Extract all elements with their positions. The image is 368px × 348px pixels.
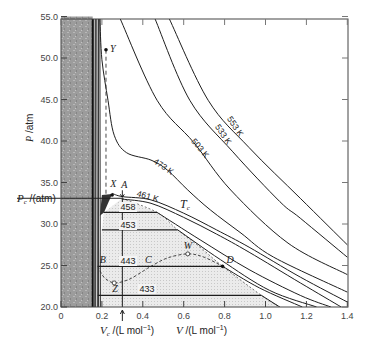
x-tick-label: 1.2 bbox=[300, 311, 313, 321]
y-tick-label: 30.0 bbox=[40, 219, 58, 229]
v-unit: /(L mol bbox=[183, 325, 216, 336]
pv-isotherm-chart: 00.20.40.60.81.01.21.420.025.030.035.040… bbox=[0, 0, 368, 348]
x-tick-label: 0.8 bbox=[218, 311, 231, 321]
x-tick-label: 1.4 bbox=[341, 311, 354, 321]
isotherm-label: 503 K bbox=[189, 136, 211, 160]
v-close: ) bbox=[224, 325, 227, 336]
pc-axis-label: Pc /(atm) bbox=[16, 192, 56, 206]
point-marker-d bbox=[221, 265, 225, 269]
point-marker-w bbox=[186, 252, 190, 256]
point-marker-y bbox=[104, 48, 108, 52]
tie-line-label: 458 bbox=[120, 202, 135, 212]
y-tick-label: 25.0 bbox=[40, 261, 58, 271]
point-label-z: Z bbox=[112, 283, 118, 294]
isotherm-553-k bbox=[169, 19, 347, 245]
x-tick-label: 1.0 bbox=[259, 311, 272, 321]
y-axis-title-symbol: P bbox=[24, 136, 35, 143]
v-exponent: −1 bbox=[216, 324, 224, 331]
y-axis-title: P /atm bbox=[24, 114, 35, 143]
tie-line-label: 453 bbox=[120, 220, 135, 230]
y-tick-label: 40.0 bbox=[40, 136, 58, 146]
x-tick-label: 0.6 bbox=[177, 311, 190, 321]
vc-arrow-icon bbox=[120, 310, 124, 321]
y-tick-label: 35.0 bbox=[40, 178, 58, 188]
y-axis-title-unit: /atm bbox=[24, 114, 35, 136]
vc-axis-label: Vc /(L mol−1) bbox=[100, 324, 154, 338]
v-axis-label: V /(L mol−1) bbox=[176, 324, 227, 336]
tc-subscript: c bbox=[187, 204, 191, 212]
point-label-d: D bbox=[226, 254, 235, 265]
liquid-isotherm-branch bbox=[94, 17, 95, 308]
point-label-x: X bbox=[109, 178, 117, 189]
tie-line-label: 443 bbox=[120, 256, 135, 266]
tc-label: Tc bbox=[180, 197, 191, 212]
chart-canvas: 00.20.40.60.81.01.21.420.025.030.035.040… bbox=[0, 0, 368, 348]
y-tick-label: 50.0 bbox=[40, 53, 58, 63]
point-label-c: C bbox=[145, 254, 152, 265]
x-tick-label: 0 bbox=[58, 311, 63, 321]
liquid-region bbox=[61, 17, 93, 308]
isotherm-533-k bbox=[155, 19, 347, 257]
liquid-isotherm-branch bbox=[97, 17, 98, 308]
vc-exponent: −1 bbox=[143, 324, 151, 331]
point-label-b: B bbox=[100, 254, 106, 265]
tie-line-label: 433 bbox=[139, 284, 154, 294]
x-tick-label: 0.4 bbox=[137, 311, 150, 321]
vc-close: ) bbox=[151, 325, 154, 336]
point-label-a: A bbox=[120, 179, 128, 190]
y-tick-label: 55.0 bbox=[40, 12, 58, 22]
point-marker-x bbox=[110, 193, 114, 197]
isotherm-label: 461 K bbox=[136, 188, 160, 204]
point-label-y: Y bbox=[110, 43, 117, 54]
x-tick-label: 0.2 bbox=[96, 311, 109, 321]
y-tick-label: 20.0 bbox=[40, 302, 58, 312]
pc-unit: /(atm) bbox=[27, 193, 56, 204]
vc-unit: /(L mol bbox=[110, 325, 143, 336]
y-tick-label: 45.0 bbox=[40, 95, 58, 105]
